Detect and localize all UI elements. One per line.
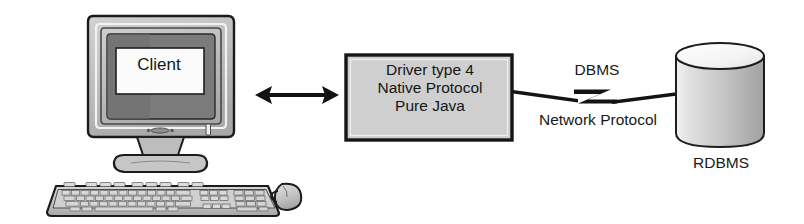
client-driver-arrow-icon	[255, 86, 339, 104]
driver-label-line-3: Pure Java	[348, 97, 512, 115]
client-screen-label: Client	[118, 55, 200, 75]
network-protocol-connector-label: Network Protocol	[521, 111, 675, 129]
driver-label-line-2: Native Protocol	[348, 79, 512, 97]
rdbms-label: RDBMS	[684, 154, 758, 172]
desktop-computer-icon	[47, 16, 301, 216]
diagram-canvas: Client Driver type 4 Native Protocol Pur…	[0, 0, 804, 224]
driver-box-label: Driver type 4 Native Protocol Pure Java	[348, 61, 512, 114]
driver-label-line-1: Driver type 4	[348, 61, 512, 79]
dbms-connector-label: DBMS	[564, 61, 630, 79]
database-cylinder-icon	[676, 43, 764, 147]
network-link-icon	[513, 90, 678, 105]
